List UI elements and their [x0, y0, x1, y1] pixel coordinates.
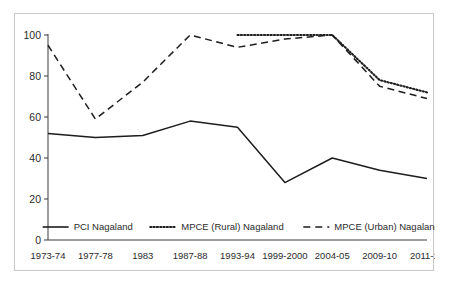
- x-axis-tick-label: 2011-12: [410, 250, 435, 261]
- x-axis-tick-label: 1973-74: [31, 250, 66, 261]
- legend-label: PCI Nagaland: [74, 221, 133, 232]
- x-axis-tick-label: 1993-94: [220, 250, 255, 261]
- series-line-1: [48, 121, 427, 183]
- y-axis-tick-label: 0: [35, 234, 41, 246]
- x-axis-tick-label: 1983: [132, 250, 153, 261]
- x-axis-tick-label: 1977-78: [78, 250, 113, 261]
- legend-label: MPCE (Urban) Nagaland: [334, 221, 435, 232]
- x-axis-tick-label: 1999-2000: [262, 250, 307, 261]
- plot-area: 0204060801001973-741977-7819831987-88199…: [15, 14, 435, 272]
- x-axis-tick-label: 2004-05: [315, 250, 350, 261]
- y-axis-tick-label: 60: [29, 111, 41, 123]
- series-line-2: [238, 35, 428, 92]
- chart-container: 0204060801001973-741977-7819831987-88199…: [14, 13, 434, 271]
- x-axis-tick-label: 1987-88: [173, 250, 208, 261]
- y-axis-tick-label: 80: [29, 70, 41, 82]
- y-axis-tick-label: 40: [29, 152, 41, 164]
- legend-item: MPCE (Urban) Nagaland: [303, 221, 435, 232]
- x-axis-tick-label: 2009-10: [362, 250, 397, 261]
- y-axis-tick-label: 20: [29, 193, 41, 205]
- legend-item: PCI Nagaland: [43, 221, 133, 232]
- y-axis-tick-label: 100: [23, 29, 41, 41]
- series-line-3: [48, 35, 427, 119]
- line-chart: 0204060801001973-741977-7819831987-88199…: [15, 14, 435, 272]
- legend-label: MPCE (Rural) Nagaland: [181, 221, 283, 232]
- legend-item: MPCE (Rural) Nagaland: [150, 221, 283, 232]
